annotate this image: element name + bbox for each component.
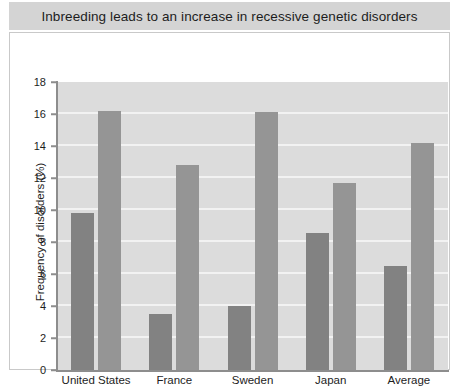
y-axis-tick-mark bbox=[51, 145, 56, 147]
bar bbox=[333, 183, 356, 370]
bar bbox=[384, 266, 407, 370]
y-axis-tick-mark bbox=[51, 177, 56, 179]
y-axis-tick-mark bbox=[51, 209, 56, 211]
bar bbox=[176, 165, 199, 370]
x-axis-tick-label: France bbox=[156, 374, 192, 386]
bar bbox=[228, 306, 251, 370]
y-axis-tick-mark bbox=[51, 273, 56, 275]
bar bbox=[149, 314, 172, 370]
plot-area bbox=[57, 82, 448, 370]
chart-title-banner: Inbreeding leads to an increase in reces… bbox=[9, 2, 450, 30]
y-axis-tick-mark bbox=[51, 337, 56, 339]
bar bbox=[306, 233, 329, 370]
y-axis-title: Frequency of disorders (%) bbox=[34, 132, 46, 332]
page-title: Inbreeding leads to an increase in reces… bbox=[41, 9, 417, 24]
bar bbox=[411, 143, 434, 370]
bar bbox=[255, 112, 278, 370]
y-axis-tick-mark bbox=[51, 241, 56, 243]
y-axis-line bbox=[56, 81, 58, 371]
y-axis-tick-mark bbox=[51, 305, 56, 307]
y-axis-tick-label: 16 bbox=[5, 108, 51, 120]
chart-card: 024681012141618 Frequency of disorders (… bbox=[9, 32, 450, 370]
y-axis-tick-label: 2 bbox=[5, 332, 51, 344]
y-axis-tick-label: 18 bbox=[5, 76, 51, 88]
x-axis-tick-label: United States bbox=[62, 374, 131, 386]
bar bbox=[98, 111, 121, 370]
x-axis-tick-label: Average bbox=[388, 374, 431, 386]
x-axis-tick-label: Sweden bbox=[232, 374, 274, 386]
bar bbox=[71, 213, 94, 370]
y-axis-tick-label: 0 bbox=[5, 364, 51, 376]
y-axis-tick-mark bbox=[51, 113, 56, 115]
y-axis-tick-mark bbox=[51, 369, 56, 371]
x-axis-line bbox=[56, 370, 449, 372]
x-axis-tick-label: Japan bbox=[315, 374, 346, 386]
y-axis-tick-mark bbox=[51, 81, 56, 83]
